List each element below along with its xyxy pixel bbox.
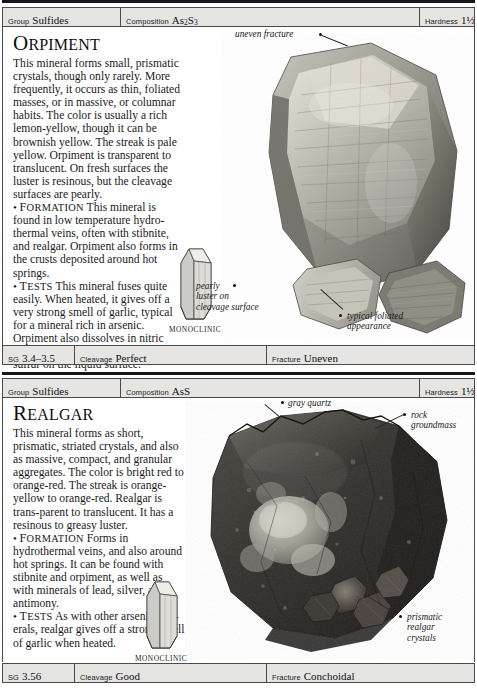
group-value: Sulfides	[29, 379, 68, 397]
cleavage-value: Good	[113, 664, 140, 682]
hardness-value: 1½–2	[458, 379, 474, 397]
fracture-value: Uneven	[301, 346, 338, 364]
sg-field: SG 3.4–3.5	[3, 346, 75, 364]
sg-value: 3.56	[19, 664, 41, 682]
tests-heading: TESTS	[20, 281, 53, 292]
tests-heading: TESTS	[20, 611, 53, 622]
realgar-intro: This mineral forms as short, prismatic, …	[13, 427, 185, 532]
callout-dot-gray-quartz	[281, 401, 284, 404]
callout-dot-prismatic-crystals	[399, 615, 402, 618]
page-title-realgar: REALGAR	[13, 403, 185, 424]
realgar-header-bar: Group Sulfides Composition AsS Hardness …	[2, 378, 475, 398]
sg-label: SG	[8, 668, 19, 682]
fracture-label: Fracture	[272, 350, 301, 364]
sg-field: SG 3.56	[3, 664, 75, 682]
callout-uneven-fracture: uneven fracture	[235, 29, 293, 39]
fracture-label: Fracture	[272, 668, 301, 682]
callout-typical-foliated: typical foliated appearance	[347, 311, 403, 332]
orpiment-footer-bar: SG 3.4–3.5 Cleavage Perfect Fracture Une…	[2, 345, 475, 365]
formation-heading: FORMATION	[20, 533, 84, 544]
field-guide-page: Group Sulfides Composition As2S3 Hardnes…	[0, 0, 477, 691]
group-value: Sulfides	[29, 8, 68, 26]
callout-gray-quartz: gray quartz	[288, 398, 331, 408]
composition-field: Composition As2S3	[121, 8, 420, 26]
composition-value: AsS	[169, 379, 190, 397]
orpiment-intro: This mineral forms small, prismatic crys…	[13, 57, 185, 201]
composition-label: Composition	[126, 383, 169, 397]
group-field: Group Sulfides	[3, 379, 121, 397]
callout-dot-typical-foliated	[339, 314, 342, 317]
fracture-field: Fracture Conchoidal	[267, 664, 474, 682]
cleavage-field: Cleavage Perfect	[75, 346, 267, 364]
callout-rock-groundmass: rock groundmass	[411, 410, 456, 431]
sg-value: 3.4–3.5	[19, 346, 55, 364]
hardness-field: Hardness 1½–2	[420, 8, 474, 26]
orpiment-specimen-photo	[221, 33, 473, 341]
orpiment-content: ORPIMENT This mineral forms small, prism…	[2, 27, 475, 345]
hardness-label: Hardness	[425, 12, 458, 26]
group-field: Group Sulfides	[3, 8, 121, 26]
realgar-crystal-diagram: MONOCLINIC	[121, 578, 201, 663]
hardness-value: 1½–2	[458, 8, 474, 26]
group-label: Group	[8, 383, 29, 397]
crystal-system-label: MONOCLINIC	[155, 325, 235, 334]
callout-prismatic-crystals: prismatic realgar crystals	[407, 612, 442, 643]
page-title-orpiment: ORPIMENT	[13, 33, 185, 54]
hardness-label: Hardness	[425, 383, 458, 397]
fracture-value: Conchoidal	[301, 664, 355, 682]
composition-value: As2S3	[169, 8, 198, 26]
composition-label: Composition	[126, 12, 169, 26]
composition-field: Composition AsS	[121, 379, 420, 397]
fracture-field: Fracture Uneven	[267, 346, 474, 364]
mineral-entry-realgar: Group Sulfides Composition AsS Hardness …	[0, 372, 477, 691]
top-rule	[2, 0, 475, 3]
cleavage-label: Cleavage	[80, 668, 113, 682]
realgar-footer-bar: SG 3.56 Cleavage Good Fracture Conchoida…	[2, 663, 475, 683]
group-label: Group	[8, 12, 29, 26]
cleavage-field: Cleavage Good	[75, 664, 267, 682]
crystal-system-label: MONOCLINIC	[121, 654, 201, 663]
mineral-entry-orpiment: Group Sulfides Composition As2S3 Hardnes…	[0, 0, 477, 372]
cleavage-value: Perfect	[113, 346, 147, 364]
callout-pearly-luster: pearly luster on cleavage surface	[196, 281, 259, 312]
callout-dot-pearly-luster	[233, 284, 236, 287]
cleavage-label: Cleavage	[80, 350, 113, 364]
sg-label: SG	[8, 350, 19, 364]
hardness-field: Hardness 1½–2	[420, 379, 474, 397]
realgar-content: REALGAR This mineral forms as short, pri…	[2, 398, 475, 662]
orpiment-header-bar: Group Sulfides Composition As2S3 Hardnes…	[2, 7, 475, 27]
formation-heading: FORMATION	[20, 202, 84, 213]
top-rule-realgar	[2, 372, 475, 375]
